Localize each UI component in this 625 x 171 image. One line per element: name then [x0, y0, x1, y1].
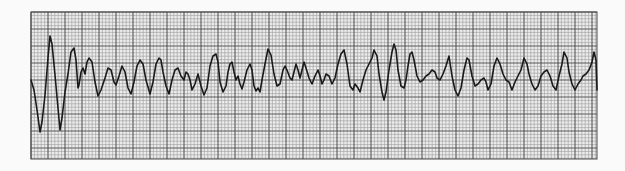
ecg-rhythm-strip: [0, 0, 625, 171]
